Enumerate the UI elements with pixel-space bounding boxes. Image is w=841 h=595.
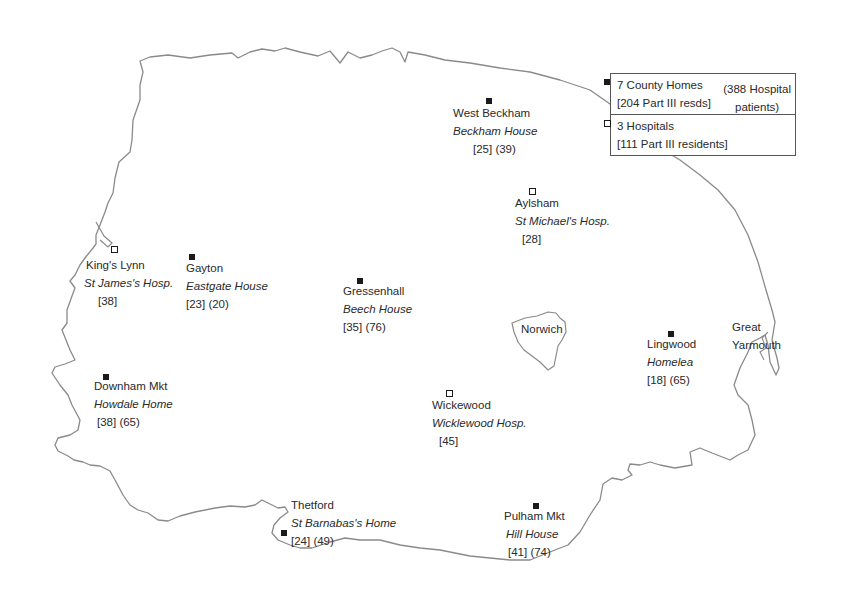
hollow-square-icon <box>604 120 611 127</box>
site-figures: [18] (65) <box>647 371 696 389</box>
site-west-beckham: West Beckham Beckham House [25] (39) <box>453 104 537 158</box>
site-figures: [35] (76) <box>343 318 412 336</box>
wash-inlet <box>96 222 112 247</box>
legend-hospitals-residents: [111 Part III residents] <box>617 135 789 153</box>
site-figures: [38] <box>86 292 173 310</box>
site-place: Downham Mkt <box>94 377 173 395</box>
site-institution: Homelea <box>647 353 696 371</box>
site-place: Aylsham <box>515 194 610 212</box>
site-figures: [28] <box>515 230 610 248</box>
site-institution: St Michael's Hosp. <box>515 212 610 230</box>
site-gayton: Gayton Eastgate House [23] (20) <box>186 259 268 313</box>
town-great-yarmouth-line1: Great <box>732 318 781 336</box>
site-figures: [41] (74) <box>504 543 565 561</box>
site-figures: [45] <box>432 432 527 450</box>
site-figures: [23] (20) <box>186 295 268 313</box>
site-place: Thetford <box>291 496 396 514</box>
legend-hospitals-title: 3 Hospitals <box>617 117 789 135</box>
town-norwich: Norwich <box>521 320 563 338</box>
site-place: Wickewood <box>432 396 527 414</box>
legend-hospital-patients: (388 Hospital patients) <box>723 80 791 116</box>
site-place: Lingwood <box>647 335 696 353</box>
map-legend: 7 County Homes [204 Part III resds] (388… <box>610 73 796 156</box>
legend-hospitals: 3 Hospitals [111 Part III residents] <box>611 114 795 155</box>
site-institution: Hill House <box>504 525 565 543</box>
site-downham-mkt: Downham Mkt Howdale Home [38] (65) <box>94 377 173 431</box>
legend-county-homes: 7 County Homes [204 Part III resds] (388… <box>611 74 795 114</box>
site-institution: Eastgate House <box>186 277 268 295</box>
site-institution: St James's Hosp. <box>84 274 173 292</box>
site-institution: St Barnabas's Home <box>291 514 396 532</box>
site-institution: Beech House <box>343 300 412 318</box>
site-thetford: Thetford St Barnabas's Home [24] (49) <box>291 496 396 550</box>
town-great-yarmouth-line2: Yarmouth <box>732 336 781 354</box>
site-place: Gayton <box>186 259 268 277</box>
site-pulham-mkt: Pulham Mkt Hill House [41] (74) <box>504 507 565 561</box>
site-aylsham: Aylsham St Michael's Hosp. [28] <box>515 194 610 248</box>
hollow-square-icon <box>111 246 118 253</box>
site-institution: Beckham House <box>453 122 537 140</box>
site-kings-lynn: King's Lynn St James's Hosp. [38] <box>86 256 173 310</box>
site-figures: [25] (39) <box>453 140 537 158</box>
site-place: Gressenhall <box>343 282 412 300</box>
site-gressenhall: Gressenhall Beech House [35] (76) <box>343 282 412 336</box>
town-great-yarmouth: Great Yarmouth <box>732 318 781 354</box>
site-figures: [38] (65) <box>94 413 173 431</box>
site-institution: Wicklewood Hosp. <box>432 414 527 432</box>
site-place: West Beckham <box>453 104 537 122</box>
site-figures: [24] (49) <box>291 532 396 550</box>
legend-hospital-patients-line1: (388 Hospital <box>723 80 791 98</box>
filled-square-icon <box>281 530 287 536</box>
filled-square-icon <box>604 79 610 85</box>
site-place: King's Lynn <box>86 256 173 274</box>
site-place: Pulham Mkt <box>504 507 565 525</box>
site-lingwood: Lingwood Homelea [18] (65) <box>647 335 696 389</box>
site-wickewood: Wickewood Wicklewood Hosp. [45] <box>432 396 527 450</box>
site-institution: Howdale Home <box>94 395 173 413</box>
